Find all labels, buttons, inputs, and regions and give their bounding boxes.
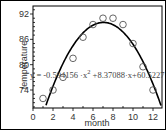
- data-point: [110, 15, 117, 22]
- y-tick-label: 92: [19, 9, 29, 19]
- x-tick-label: 0: [30, 112, 35, 122]
- data-point: [100, 15, 107, 22]
- x-tick-label: 2: [50, 112, 55, 122]
- data-point: [80, 34, 87, 41]
- x-tick-label: 4: [70, 112, 75, 122]
- x-axis-title: month: [84, 118, 109, 128]
- x-tick-label: 8: [110, 112, 115, 122]
- scatter-chart: 74808692024681012 y = -0.594156 ·x2 +8.3…: [0, 0, 168, 135]
- x-tick-label: 12: [148, 112, 158, 122]
- y-axis-title: temperature: [19, 41, 29, 90]
- plot-area: [33, 6, 162, 108]
- equation-annotation: y = -0.594156 ·x2 +8.37088·x+60.5227: [30, 68, 165, 80]
- x-tick-label: 10: [128, 112, 138, 122]
- data-point: [70, 55, 77, 62]
- data-point: [40, 95, 47, 102]
- data-point: [120, 21, 127, 28]
- data-points: [40, 15, 157, 102]
